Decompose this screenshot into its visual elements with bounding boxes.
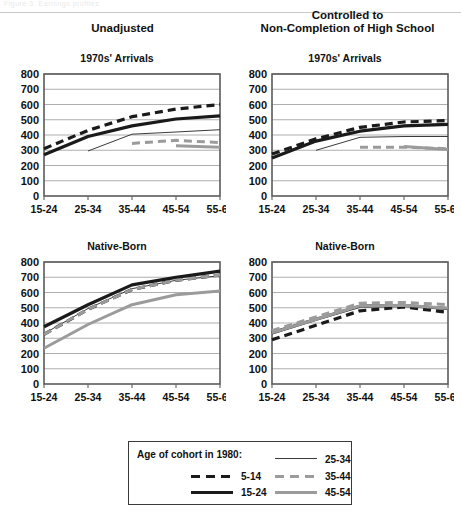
x-axis-tick-label: 55-64 xyxy=(435,203,454,215)
y-axis-tick-label: 300 xyxy=(249,144,267,156)
y-axis-tick-label: 200 xyxy=(249,160,267,172)
y-axis-tick-label: 0 xyxy=(33,378,39,390)
x-axis-tick-label: 25-34 xyxy=(75,203,102,215)
chart-svg: 010020030040050060070080015-2425-3435-44… xyxy=(8,68,226,228)
chart-svg: 010020030040050060070080015-2425-3435-44… xyxy=(236,256,454,416)
y-axis-tick-label: 700 xyxy=(21,83,39,95)
legend-label-35-44: 35-44 xyxy=(325,471,351,482)
legend-label-45-54: 45-54 xyxy=(325,487,351,498)
legend-title: Age of cohort in 1980: xyxy=(137,449,242,460)
y-axis-tick-label: 300 xyxy=(21,144,39,156)
y-axis-tick-label: 800 xyxy=(21,256,39,268)
series-line-45-54 xyxy=(404,146,448,149)
x-axis-tick-label: 45-54 xyxy=(163,391,190,403)
y-axis-tick-label: 700 xyxy=(249,271,267,283)
y-axis-tick-label: 100 xyxy=(249,175,267,187)
x-axis-tick-label: 35-44 xyxy=(119,391,146,403)
y-axis-tick-label: 700 xyxy=(249,83,267,95)
legend-swatch-15-24 xyxy=(191,491,233,494)
y-axis-tick-label: 600 xyxy=(21,287,39,299)
y-axis-tick-label: 500 xyxy=(21,302,39,314)
series-line-15-24 xyxy=(272,124,448,158)
y-axis-tick-label: 100 xyxy=(249,363,267,375)
plot-area: 010020030040050060070080015-2425-3435-44… xyxy=(236,68,454,228)
column-header-controlled: Controlled to Non-Completion of High Sch… xyxy=(240,9,455,35)
panel-title: 1970s' Arrivals xyxy=(236,52,454,64)
series-line-45-54 xyxy=(176,146,220,148)
y-axis-tick-label: 600 xyxy=(21,99,39,111)
x-axis-tick-label: 55-64 xyxy=(207,203,226,215)
y-axis-tick-label: 600 xyxy=(249,99,267,111)
x-axis-tick-label: 35-44 xyxy=(347,391,374,403)
y-axis-tick-label: 400 xyxy=(249,129,267,141)
x-axis-tick-label: 15-24 xyxy=(31,391,58,403)
chart-svg: 010020030040050060070080015-2425-3435-44… xyxy=(236,68,454,228)
series-line-35-44 xyxy=(132,140,220,143)
y-axis-tick-label: 500 xyxy=(21,114,39,126)
x-axis-tick-label: 15-24 xyxy=(259,391,286,403)
y-axis-tick-label: 100 xyxy=(21,363,39,375)
plot-area: 010020030040050060070080015-2425-3435-44… xyxy=(236,256,454,416)
column-header-unadjusted: Unadjusted xyxy=(20,22,225,35)
x-axis-tick-label: 25-34 xyxy=(303,203,330,215)
y-axis-tick-label: 800 xyxy=(21,68,39,80)
y-axis-tick-label: 300 xyxy=(249,332,267,344)
legend-label-15-24: 15-24 xyxy=(241,487,267,498)
y-axis-tick-label: 600 xyxy=(249,287,267,299)
legend-swatch-5-14 xyxy=(191,475,233,478)
y-axis-tick-label: 100 xyxy=(21,175,39,187)
x-axis-tick-label: 25-34 xyxy=(75,391,102,403)
legend-swatch-25-34 xyxy=(275,458,317,459)
y-axis-tick-label: 300 xyxy=(21,332,39,344)
column-header-controlled-line2: Non-Completion of High School xyxy=(240,22,455,35)
y-axis-tick-label: 0 xyxy=(261,190,267,202)
panel-title: Native-Born xyxy=(236,240,454,252)
y-axis-tick-label: 400 xyxy=(21,317,39,329)
x-axis-tick-label: 45-54 xyxy=(391,203,418,215)
x-axis-tick-label: 55-64 xyxy=(207,391,226,403)
legend-label-5-14: 5-14 xyxy=(241,471,261,482)
y-axis-tick-label: 500 xyxy=(249,302,267,314)
y-axis-tick-label: 400 xyxy=(249,317,267,329)
legend-inner: Age of cohort in 1980: 25-345-1435-4415-… xyxy=(129,442,351,504)
y-axis-tick-label: 400 xyxy=(21,129,39,141)
y-axis-tick-label: 700 xyxy=(21,271,39,283)
x-axis-tick-label: 45-54 xyxy=(391,391,418,403)
legend-label-25-34: 25-34 xyxy=(325,454,351,465)
x-axis-tick-label: 15-24 xyxy=(259,203,286,215)
column-header-controlled-line1: Controlled to xyxy=(240,9,455,22)
chart-legend: Age of cohort in 1980: 25-345-1435-4415-… xyxy=(128,441,352,505)
y-axis-tick-label: 200 xyxy=(21,160,39,172)
panel-title: 1970s' Arrivals xyxy=(8,52,226,64)
x-axis-tick-label: 45-54 xyxy=(163,203,190,215)
legend-swatch-35-44 xyxy=(275,475,317,478)
y-axis-tick-label: 200 xyxy=(249,348,267,360)
legend-swatch-45-54 xyxy=(275,491,317,494)
x-axis-tick-label: 35-44 xyxy=(347,203,374,215)
x-axis-tick-label: 15-24 xyxy=(31,203,58,215)
panel-title: Native-Born xyxy=(8,240,226,252)
y-axis-tick-label: 500 xyxy=(249,114,267,126)
y-axis-tick-label: 0 xyxy=(261,378,267,390)
y-axis-tick-label: 800 xyxy=(249,256,267,268)
chart-svg: 010020030040050060070080015-2425-3435-44… xyxy=(8,256,226,416)
x-axis-tick-label: 25-34 xyxy=(303,391,330,403)
plot-area: 010020030040050060070080015-2425-3435-44… xyxy=(8,68,226,228)
y-axis-tick-label: 800 xyxy=(249,68,267,80)
x-axis-tick-label: 55-64 xyxy=(435,391,454,403)
x-axis-tick-label: 35-44 xyxy=(119,203,146,215)
column-header-unadjusted-label: Unadjusted xyxy=(91,22,154,34)
y-axis-tick-label: 200 xyxy=(21,348,39,360)
plot-area: 010020030040050060070080015-2425-3435-44… xyxy=(8,256,226,416)
y-axis-tick-label: 0 xyxy=(33,190,39,202)
